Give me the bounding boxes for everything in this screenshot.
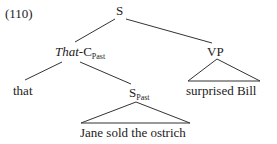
- that-c-subscript: Past: [92, 52, 105, 61]
- that-c-italic-part: That: [55, 44, 79, 59]
- node-vp: VP: [207, 45, 224, 59]
- branch-s-to-vp: [126, 19, 212, 43]
- branch-that-c-to-s-past: [80, 62, 131, 84]
- s-past-triangle: [81, 102, 190, 123]
- branch-that-c-to-that: [25, 62, 62, 80]
- vp-triangle: [188, 59, 260, 81]
- tree-branches: [0, 0, 277, 144]
- node-that-c-past: That-CPast: [55, 45, 105, 64]
- branch-s-to-that-c: [75, 19, 115, 42]
- leaf-that: that: [13, 84, 33, 98]
- node-s: S: [116, 4, 123, 18]
- example-number: (110): [5, 7, 33, 21]
- vp-yield: surprised Bill: [186, 84, 256, 98]
- node-s-past: SPast: [129, 86, 150, 105]
- that-c-rest: -C: [79, 44, 92, 59]
- s-past-subscript: Past: [136, 93, 149, 102]
- s-past-yield: Jane sold the ostrich: [80, 126, 186, 140]
